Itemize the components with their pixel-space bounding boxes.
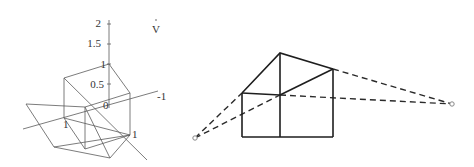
tick-label-1: 1	[101, 58, 107, 70]
right-point-label: 1	[132, 128, 138, 140]
tick-label-1-5: 1.5	[87, 37, 101, 49]
horizontal-axis	[23, 91, 158, 129]
tick-label-2: 2	[96, 17, 102, 29]
tick-label-0: 0	[103, 99, 109, 111]
vanish-line-left-top	[195, 93, 242, 138]
projection-plane	[26, 104, 110, 158]
axis-end-label: -1	[157, 90, 166, 102]
right-vanishing-point	[450, 102, 454, 106]
left-vanishing-point	[193, 136, 197, 140]
diagram-canvas: 2 1.5 1 0.5 0 V -1 1 1	[0, 0, 474, 167]
left-3d-figure: 2 1.5 1 0.5 0 V -1 1 1	[23, 17, 166, 160]
vanish-line-left-mid	[195, 95, 280, 138]
left-point-label: 1	[63, 118, 69, 130]
roof-edges	[242, 53, 333, 93]
v-label: V	[152, 23, 160, 35]
tick-label-0-5: 0.5	[90, 78, 104, 90]
vanish-line-right-mid	[280, 95, 452, 104]
depth-axis	[64, 78, 147, 160]
right-perspective-figure	[193, 53, 454, 140]
